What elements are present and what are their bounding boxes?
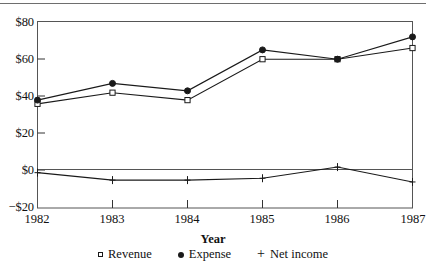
open-square-marker-icon [110,90,115,95]
plot-area-frame [38,22,413,209]
legend-item-expense[interactable]: Expense [178,247,231,262]
legend-item-net-income[interactable]: + Net income [257,247,328,262]
x-axis-title: Year [0,232,426,247]
chart-legend: Revenue Expense + Net income [0,247,426,262]
chart-figure: $80 $60 $40 $20 $0 −$20 1982 1983 1984 1… [0,0,426,263]
filled-circle-marker-icon [110,80,116,86]
filled-circle-marker-icon [410,34,416,40]
filled-circle-marker-icon [335,56,341,62]
filled-circle-marker-icon [260,47,266,53]
legend-item-revenue[interactable]: Revenue [98,247,152,262]
open-square-marker-icon [185,98,190,103]
plus-marker-icon: + [257,247,265,261]
legend-label: Expense [189,247,231,262]
open-square-marker-icon [410,45,415,50]
filled-circle-marker-icon [35,97,41,103]
filled-circle-marker-icon [185,88,191,94]
filled-circle-marker-icon [178,252,184,258]
open-square-marker-icon [98,252,103,257]
legend-label: Net income [270,247,328,262]
plot-canvas [0,0,426,263]
legend-label: Revenue [108,247,152,262]
open-square-marker-icon [260,57,265,62]
